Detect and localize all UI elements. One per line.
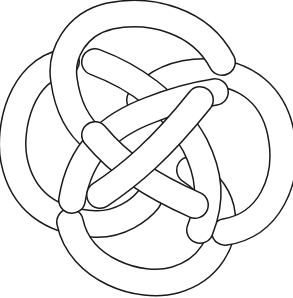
celtic-knot-image [0, 0, 293, 298]
celtic-knot-drawing [0, 0, 293, 298]
